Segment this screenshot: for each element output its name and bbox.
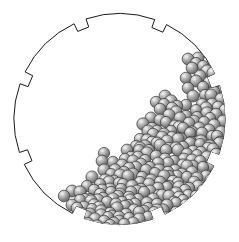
particle <box>211 155 222 166</box>
particle <box>210 148 222 160</box>
particle <box>91 220 103 232</box>
particle <box>214 61 225 72</box>
particle <box>170 206 182 218</box>
particle <box>197 184 208 195</box>
particle <box>180 199 192 211</box>
particle <box>212 73 224 85</box>
drum-simulation-canvas <box>0 0 239 242</box>
simulation-figure <box>0 0 239 242</box>
particle <box>120 224 131 235</box>
particle <box>118 218 129 229</box>
particle <box>130 223 142 235</box>
particle <box>140 220 152 232</box>
particle <box>205 174 217 186</box>
particle <box>160 212 172 224</box>
particle <box>207 67 219 79</box>
particle <box>150 216 161 227</box>
particle <box>82 217 93 228</box>
